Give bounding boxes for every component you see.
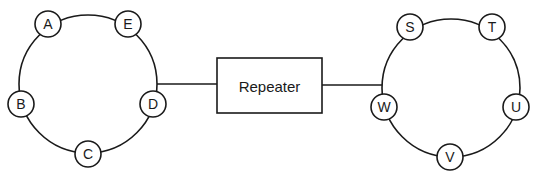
repeater-box: Repeater [217,58,322,113]
node-c-label: C [83,146,93,162]
node-t-label: T [488,19,497,35]
node-w: W [371,94,397,120]
node-b: B [8,91,34,117]
node-a: A [35,11,61,37]
network-diagram: Repeater A E B D C S T W U V [0,0,539,179]
node-u-label: U [511,99,521,115]
node-b-label: B [16,96,25,112]
node-u: U [503,94,529,120]
left-ring [19,15,157,153]
node-d: D [140,91,166,117]
node-d-label: D [148,96,158,112]
node-v: V [437,144,463,170]
node-e-label: E [123,16,132,32]
node-e: E [115,11,141,37]
repeater-label: Repeater [239,78,301,95]
node-w-label: W [377,99,391,115]
node-s-label: S [405,19,414,35]
node-t: T [479,14,505,40]
node-c: C [75,141,101,167]
node-a-label: A [43,16,53,32]
right-ring [382,19,520,157]
node-v-label: V [445,149,455,165]
node-s: S [397,14,423,40]
